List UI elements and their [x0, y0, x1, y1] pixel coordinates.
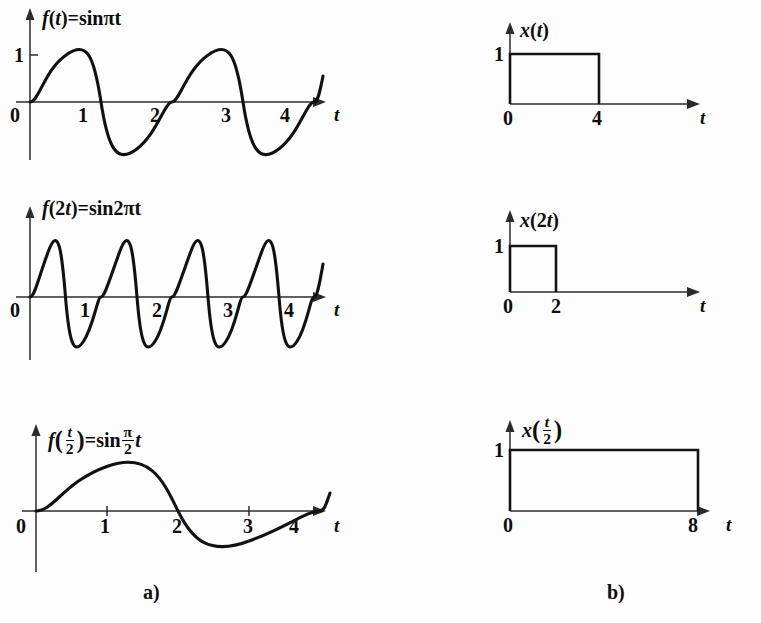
eq-equals-left-top: =	[68, 8, 79, 28]
x-axis-label-right-mid: t	[700, 296, 705, 315]
x-tick-label-0-left-top: 0	[10, 105, 20, 125]
eq-frac-den-left-bottom: 2	[64, 441, 76, 457]
eq-frac-num-left-bottom: t	[66, 424, 74, 441]
x-tick-label-2-left-top: 2	[150, 105, 160, 125]
y-tick-label-1-right-top: 1	[494, 44, 504, 64]
eq-var-left-mid: t	[134, 198, 141, 218]
pulse-right-mid	[510, 246, 556, 292]
eq-open-paren-left-bottom: (	[55, 428, 63, 452]
eq-arg-num-left-mid: 2	[55, 198, 65, 218]
y-tick-label-1-right-bottom: 1	[494, 440, 504, 460]
eq-close-paren-left-bottom: )	[77, 428, 85, 452]
eq-equals-left-mid: =	[78, 198, 89, 218]
y-axis-arrow-right-bottom	[506, 420, 515, 432]
x-axis-label-left-bottom: t	[334, 516, 339, 535]
y-tick-label-1-left-top: 1	[14, 45, 24, 65]
eq-sin-left-bottom: sin	[96, 430, 120, 450]
eq-close-paren-right-bottom: )	[554, 418, 562, 442]
pulse-right-bottom	[510, 450, 698, 511]
sine-curve-left-mid	[30, 241, 323, 348]
x-tick-label-3-left-top: 3	[221, 105, 231, 125]
x-tick-label-0-right-top: 0	[503, 108, 513, 128]
x-tick-label-4-left-mid: 4	[284, 300, 294, 320]
eq-x-right-bottom: x	[522, 420, 532, 440]
x-tick-label-3-left-mid: 3	[223, 300, 233, 320]
y-tick-label-1-right-mid: 1	[494, 236, 504, 256]
sine-curve-left-bottom	[36, 462, 330, 547]
equation-left-mid: f(2t)=sin 2πt	[42, 198, 141, 218]
x-tick-label-2-right-mid: 2	[551, 296, 561, 316]
equation-right-bottom: x(t2)	[522, 414, 562, 447]
eq-open-paren-right-top: (	[530, 20, 537, 40]
eq-pi-left-top: π	[103, 8, 114, 28]
eq-frac-den-right-bottom: 2	[541, 431, 553, 447]
x-tick-label-4-left-bottom: 4	[289, 516, 299, 536]
caption-b: b)	[607, 581, 625, 604]
x-axis-label-left-mid: t	[334, 300, 339, 319]
eq-open-paren-left-mid: (	[49, 198, 56, 218]
x-tick-label-0-left-bottom: 0	[16, 516, 26, 536]
eq-equals-left-bottom: =	[85, 430, 96, 450]
pulse-right-top	[510, 54, 599, 104]
eq-f-left-bottom: f	[48, 430, 55, 450]
eq-arg-num-right-mid: 2	[537, 210, 547, 230]
eq-open-paren-right-bottom: (	[532, 418, 540, 442]
eq-close-paren-left-top: )	[61, 8, 68, 28]
eq-f-left-mid: f	[42, 198, 49, 218]
plot-right-bottom	[460, 400, 760, 580]
eq-coef-left-mid: 2	[113, 198, 123, 218]
eq-x-right-top: x	[520, 20, 530, 40]
equation-left-top: f(t)=sin πt	[42, 8, 121, 28]
x-tick-label-4-left-top: 4	[280, 105, 290, 125]
x-tick-label-2-left-mid: 2	[152, 300, 162, 320]
eq-x-right-mid: x	[520, 210, 530, 230]
plot-right-mid	[460, 190, 760, 375]
eq-close-paren-left-mid: )	[71, 198, 78, 218]
y-axis-arrow-right-top	[506, 22, 515, 34]
eq-close-paren-right-top: )	[542, 20, 549, 40]
eq-sin-left-top: sin	[79, 8, 103, 28]
x-tick-label-4-right-top: 4	[592, 108, 602, 128]
y-axis-arrow-right-mid	[506, 210, 515, 222]
plot-right-top	[460, 0, 760, 180]
eq-fraction-arg-left-bottom: t2	[64, 424, 76, 457]
eq-fraction-arg-right-bottom: t2	[541, 414, 553, 447]
x-tick-label-2-left-bottom: 2	[172, 516, 182, 536]
x-axis-label-right-bottom: t	[726, 515, 731, 534]
eq-var-left-bottom: t	[135, 430, 141, 450]
eq-f-left-top: f	[42, 8, 49, 28]
x-tick-label-1-left-top: 1	[78, 105, 88, 125]
x-axis-label-left-top: t	[334, 105, 339, 124]
eq-pi-num-left-bottom: π	[122, 424, 135, 441]
y-axis-arrow-left-top	[26, 8, 35, 20]
x-tick-label-8-right-bottom: 8	[688, 515, 698, 535]
equation-right-top: x(t)	[520, 20, 549, 40]
eq-open-paren-right-mid: (	[530, 210, 537, 230]
eq-pi-left-mid: π	[123, 198, 134, 218]
x-axis-arrow-right-top	[687, 99, 700, 109]
eq-open-paren-left-top: (	[49, 8, 56, 28]
equation-right-mid: x(2t)	[520, 210, 559, 230]
x-tick-label-0-left-mid: 0	[10, 300, 20, 320]
x-tick-label-3-left-bottom: 3	[243, 516, 253, 536]
equation-left-bottom: f(t2)=sin π2t	[48, 424, 141, 457]
x-axis-label-right-top: t	[700, 108, 705, 127]
x-axis-arrow-right-mid	[687, 287, 700, 297]
figure-container: f(t)=sin πt 1 0 1 2 3 4 t f(2t)=sin 2πt …	[0, 0, 761, 623]
eq-fraction-pi-left-bottom: π2	[122, 424, 135, 457]
eq-var-left-top: t	[114, 8, 121, 28]
y-axis-arrow-left-mid	[26, 206, 35, 218]
y-axis-arrow-left-bottom	[32, 424, 41, 436]
eq-sin-left-mid: sin	[89, 198, 113, 218]
x-tick-label-0-right-mid: 0	[503, 296, 513, 316]
eq-pi-den-left-bottom: 2	[122, 441, 134, 457]
x-tick-label-0-right-bottom: 0	[503, 515, 513, 535]
eq-frac-num-right-bottom: t	[543, 414, 551, 431]
x-tick-label-1-left-bottom: 1	[100, 516, 110, 536]
x-tick-label-1-left-mid: 1	[80, 300, 90, 320]
caption-a: a)	[143, 581, 160, 604]
eq-close-paren-right-mid: )	[552, 210, 559, 230]
